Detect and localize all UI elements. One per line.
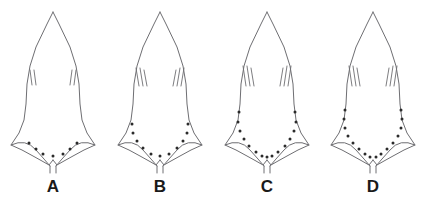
lateral-ticks-c xyxy=(243,66,291,86)
base-notch-c xyxy=(264,166,270,173)
dot-arc-b xyxy=(131,123,190,158)
figure-plate: A xyxy=(0,0,426,203)
lateral-ticks-a xyxy=(30,70,76,85)
specimen-panel-a: A xyxy=(0,0,106,203)
specimen-label-a: A xyxy=(0,176,106,197)
dot-arc-a xyxy=(28,142,79,158)
base-notch-d xyxy=(370,166,376,173)
specimen-panel-d: D xyxy=(320,0,426,203)
lateral-ticks-b xyxy=(136,68,184,86)
base-notch-b xyxy=(157,166,163,173)
lateral-ticks-d xyxy=(349,66,397,86)
base-notch-a xyxy=(50,166,56,173)
specimen-label-b: B xyxy=(107,176,213,197)
specimen-drawing-c xyxy=(214,0,320,178)
specimen-drawing-b xyxy=(107,0,213,178)
dot-arc-c xyxy=(237,111,298,159)
specimen-label-c: C xyxy=(214,176,320,197)
specimen-drawing-a xyxy=(0,0,106,178)
specimen-label-d: D xyxy=(320,176,426,197)
specimen-panel-b: B xyxy=(107,0,213,203)
specimen-panel-c: C xyxy=(214,0,320,203)
dot-arc-d xyxy=(343,109,404,159)
specimen-drawing-d xyxy=(320,0,426,178)
